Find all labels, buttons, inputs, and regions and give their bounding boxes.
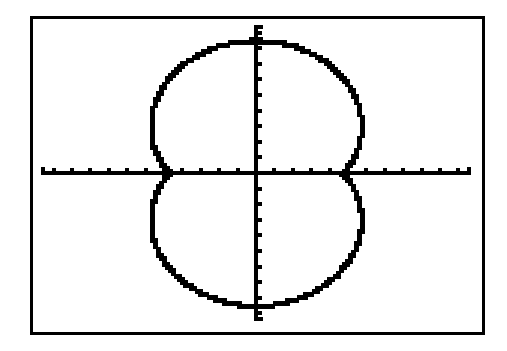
curve-pixel [342, 172, 347, 177]
x-tick [291, 168, 295, 172]
y-tick [258, 155, 262, 159]
y-tick [258, 140, 262, 144]
y-tick [258, 46, 262, 50]
y-tick [258, 280, 262, 284]
x-axis-end-tick [467, 167, 471, 173]
y-tick [258, 31, 262, 35]
y-tick [258, 202, 262, 206]
y-axis-end-tick [256, 317, 263, 321]
x-tick [383, 168, 387, 172]
y-axis [254, 25, 258, 321]
y-tick [258, 109, 262, 113]
graph-plot [33, 19, 482, 332]
y-tick [258, 187, 262, 191]
x-tick [125, 168, 129, 172]
x-tick [309, 168, 313, 172]
y-tick [258, 62, 262, 66]
x-tick [328, 168, 332, 172]
x-tick [217, 168, 221, 172]
x-tick [180, 168, 184, 172]
x-tick [199, 168, 203, 172]
y-tick [258, 77, 262, 81]
x-tick [364, 168, 368, 172]
y-axis-end-tick [256, 25, 263, 29]
x-tick [88, 168, 92, 172]
x-tick [107, 168, 111, 172]
x-tick [52, 168, 56, 172]
axes [41, 25, 472, 321]
y-tick [258, 218, 262, 222]
calculator-graph-screen: Graphing-calculator plot of a peanut-sha… [30, 16, 485, 335]
x-tick [70, 168, 74, 172]
x-tick [236, 168, 240, 172]
y-tick [258, 93, 262, 97]
x-tick [272, 168, 276, 172]
x-tick [456, 168, 460, 172]
y-tick [258, 296, 262, 300]
x-tick [438, 168, 442, 172]
y-tick [258, 311, 262, 315]
x-axis-end-tick [41, 167, 45, 173]
x-tick [420, 168, 424, 172]
y-tick [258, 265, 262, 269]
x-tick [401, 168, 405, 172]
y-tick [258, 249, 262, 253]
y-tick [258, 124, 262, 128]
x-tick [144, 168, 148, 172]
y-tick [258, 233, 262, 237]
